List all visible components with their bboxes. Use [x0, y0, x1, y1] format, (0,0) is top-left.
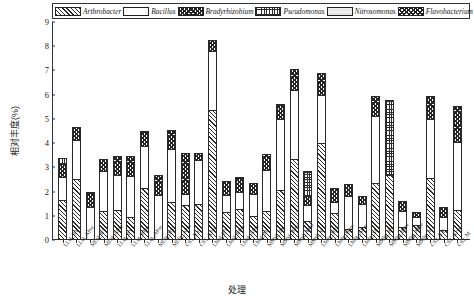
bar-segment-bacillus: [194, 160, 203, 204]
bar-LLsl_BY: [58, 158, 67, 240]
legend-swatch-nitrosomonas: [327, 7, 353, 16]
bar-segment-bacillus: [303, 205, 312, 221]
x-axis-label: 处理: [0, 283, 474, 296]
legend-swatch-pseudomonas: [255, 7, 281, 16]
bar-CS2_M: [453, 106, 462, 240]
bar-segment-bradyrhizobium: [72, 127, 81, 139]
legend-swatch-flavobacterium: [398, 7, 424, 16]
y-tick-label-6: 6: [45, 90, 52, 100]
bar-MMlg_BY: [371, 96, 380, 240]
bar-segment-bradyrhizobium: [303, 196, 312, 204]
y-tick-mark-4: [52, 143, 55, 144]
legend-label-bradyrhizobium: Bradyrhizobium: [206, 7, 254, 16]
bar-segment-bradyrhizobium: [290, 69, 299, 90]
legend-swatch-arthrobacter: [55, 7, 81, 16]
bar-segment-bradyrhizobium: [344, 184, 353, 196]
bar-segment-bacillus: [126, 176, 135, 217]
y-tick-mark-1: [52, 215, 55, 216]
y-tick-mark-2: [52, 191, 55, 192]
y-tick-mark-6: [52, 94, 55, 95]
bar-segment-bacillus: [249, 194, 258, 216]
bar-segment-bradyrhizobium: [358, 196, 367, 203]
bar-segment-bradyrhizobium: [99, 159, 108, 171]
y-tick-label-0: 0: [45, 235, 52, 245]
bar-segment-bradyrhizobium: [167, 130, 176, 149]
bar-segment-bacillus: [371, 116, 380, 183]
legend-swatch-bradyrhizobium: [178, 7, 204, 16]
y-tick-mark-9: [52, 22, 55, 23]
bar-segment-arthrobacter: [317, 143, 326, 240]
bar-MMsl_BPre: [276, 104, 285, 240]
bar-segment-bradyrhizobium: [426, 96, 435, 119]
y-axis-label: 相对丰度(%): [8, 86, 21, 176]
bar-segment-bradyrhizobium: [140, 131, 149, 146]
bar-segment-bradyrhizobium: [262, 154, 271, 170]
legend-swatch-bacillus: [123, 7, 149, 16]
y-tick-label-9: 9: [45, 17, 52, 27]
bar-segment-bradyrhizobium: [249, 183, 258, 194]
bar-segment-bacillus: [317, 95, 326, 143]
legend-item-nitrosomonas: Nitrosomonas: [327, 7, 396, 16]
legend-label-arthrobacter: Arthrobacter: [83, 7, 121, 16]
chart-root: ArthrobacterBacillusBradyrhizobiumPseudo…: [0, 0, 474, 296]
y-tick-label-1: 1: [45, 211, 52, 221]
bar-LLsl_APre: [72, 127, 81, 240]
y-tick-mark-3: [52, 167, 55, 168]
y-tick-label-7: 7: [45, 65, 52, 75]
bar-segment-bacillus: [58, 177, 67, 200]
y-tick-mark-0: [52, 240, 55, 241]
bar-segment-bradyrhizobium: [194, 153, 203, 160]
bar-segment-bacillus: [208, 51, 217, 110]
bar-segment-bradyrhizobium: [208, 40, 217, 51]
bar-segment-bacillus: [330, 202, 339, 213]
bar-segment-bradyrhizobium: [439, 207, 448, 217]
bar-segment-bacillus: [140, 146, 149, 188]
bar-segment-bradyrhizobium: [181, 153, 190, 194]
bar-LMsl_BY: [208, 40, 217, 240]
bar-segment-bacillus: [99, 171, 108, 211]
bar-segment-pseudomonas: [385, 100, 394, 175]
bar-segment-pseudomonas: [303, 171, 312, 196]
bar-segment-bradyrhizobium: [86, 192, 95, 208]
legend-label-bacillus: Bacillus: [151, 7, 175, 16]
plot-area: 0123456789: [52, 22, 470, 240]
bar-segment-arthrobacter: [58, 200, 67, 240]
legend-item-flavobacterium: Flavobacterium: [398, 7, 473, 16]
bar-segment-bradyrhizobium: [58, 164, 67, 177]
bar-segment-bacillus: [167, 149, 176, 202]
bar-segment-bacillus: [426, 119, 435, 178]
bar-segment-bradyrhizobium: [222, 181, 231, 196]
bar-segment-bradyrhizobium: [317, 73, 326, 95]
bar-segment-bacillus: [222, 195, 231, 212]
y-tick-label-8: 8: [45, 41, 52, 51]
bar-segment-bradyrhizobium: [154, 175, 163, 196]
bar-MLlg_APre: [167, 130, 176, 240]
legend-item-pseudomonas: Pseudomonas: [255, 7, 324, 16]
bar-segment-bradyrhizobium: [453, 106, 462, 142]
bar-segment-bradyrhizobium: [330, 188, 339, 203]
bar-segment-bradyrhizobium: [235, 177, 244, 192]
y-tick-mark-8: [52, 46, 55, 47]
bar-segment-bacillus: [181, 194, 190, 205]
y-tick-label-4: 4: [45, 138, 52, 148]
y-tick-mark-7: [52, 70, 55, 71]
y-tick-label-5: 5: [45, 114, 52, 124]
bar-segment-bradyrhizobium: [398, 201, 407, 211]
legend-label-pseudomonas: Pseudomonas: [283, 7, 324, 16]
bar-segment-bradyrhizobium: [126, 156, 135, 175]
legend-item-arthrobacter: Arthrobacter: [55, 7, 121, 16]
legend-label-flavobacterium: Flavobacterium: [426, 7, 473, 16]
bar-segment-bacillus: [290, 90, 299, 159]
legend-label-nitrosomonas: Nitrosomonas: [355, 7, 396, 16]
y-tick-label-3: 3: [45, 162, 52, 172]
y-tick-label-2: 2: [45, 187, 52, 197]
y-tick-mark-5: [52, 118, 55, 119]
legend-item-bacillus: Bacillus: [123, 7, 175, 16]
bar-segment-bacillus: [113, 175, 122, 210]
bar-segment-bacillus: [262, 170, 271, 211]
bar-segment-bacillus: [72, 140, 81, 180]
bar-segment-arthrobacter: [208, 110, 217, 240]
bar-LMlg_BY: [317, 73, 326, 240]
bar-MMsl_APre: [290, 69, 299, 240]
bar-segment-bacillus: [276, 119, 285, 190]
